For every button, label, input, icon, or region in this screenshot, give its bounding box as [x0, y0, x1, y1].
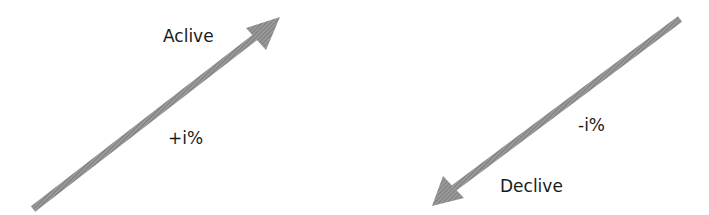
active-label: Aclive [163, 28, 214, 45]
active-arrow-icon [33, 17, 280, 209]
arrows-canvas [0, 0, 709, 215]
decline-change-label: -i% [578, 117, 605, 134]
decline-label: Declive [500, 178, 563, 195]
active-change-label: +i% [168, 130, 203, 147]
